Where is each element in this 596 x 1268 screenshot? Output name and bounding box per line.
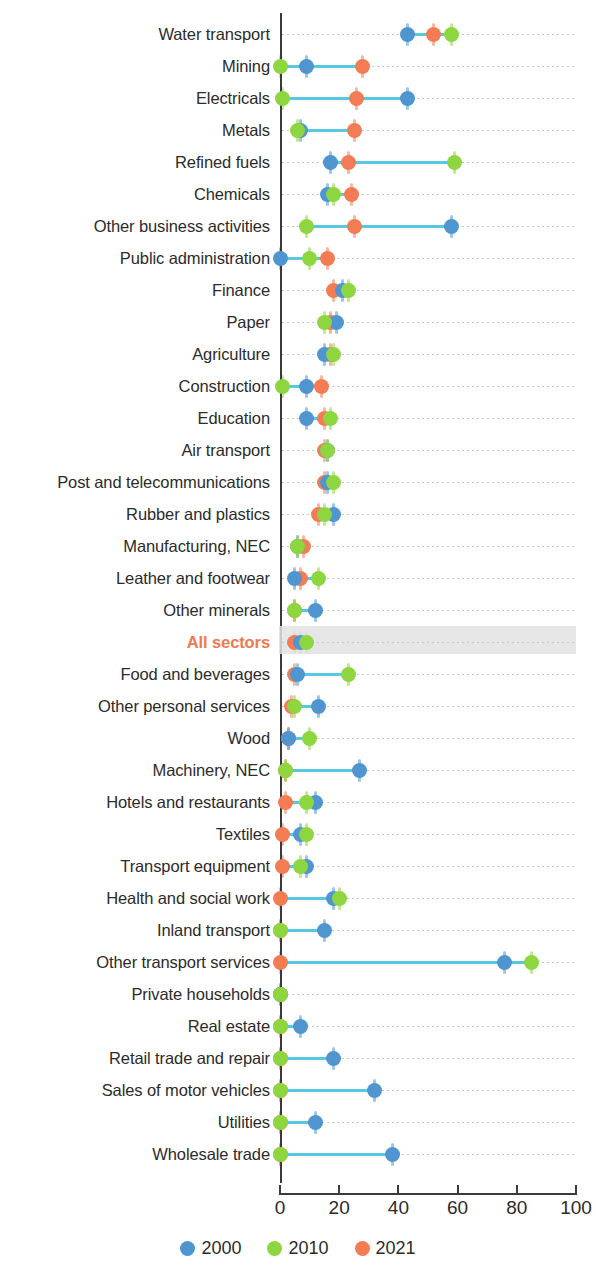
- data-point-2000[interactable]: [299, 411, 314, 426]
- data-point-2010[interactable]: [444, 27, 459, 42]
- data-point-whisker: [329, 151, 332, 174]
- x-axis-tick: [575, 1185, 577, 1195]
- row-category-label: Metals: [0, 114, 270, 146]
- chart-row: Manufacturing, NEC: [0, 530, 596, 562]
- data-point-2010[interactable]: [326, 347, 341, 362]
- data-point-2000[interactable]: [311, 699, 326, 714]
- data-point-2000[interactable]: [308, 1115, 323, 1130]
- data-point-2021[interactable]: [314, 379, 329, 394]
- data-point-2010[interactable]: [287, 699, 302, 714]
- x-axis-tick-label: 40: [388, 1197, 409, 1219]
- data-point-2010[interactable]: [311, 571, 326, 586]
- data-point-whisker: [391, 1143, 394, 1166]
- data-point-2000[interactable]: [352, 763, 367, 778]
- data-point-2010[interactable]: [524, 955, 539, 970]
- data-point-2010[interactable]: [299, 795, 314, 810]
- data-point-2010[interactable]: [341, 283, 356, 298]
- data-point-2021[interactable]: [347, 219, 362, 234]
- range-connector: [280, 65, 363, 68]
- data-point-2000[interactable]: [290, 667, 305, 682]
- data-point-2021[interactable]: [355, 59, 370, 74]
- gridline-dotted: [282, 610, 576, 611]
- data-point-2021[interactable]: [278, 795, 293, 810]
- data-point-2000[interactable]: [367, 1083, 382, 1098]
- data-point-2010[interactable]: [273, 987, 288, 1002]
- data-point-2010[interactable]: [273, 1019, 288, 1034]
- data-point-2021[interactable]: [426, 27, 441, 42]
- data-point-2010[interactable]: [273, 1051, 288, 1066]
- data-point-2010[interactable]: [317, 507, 332, 522]
- data-point-2010[interactable]: [275, 91, 290, 106]
- data-point-2000[interactable]: [400, 91, 415, 106]
- data-point-2000[interactable]: [293, 1019, 308, 1034]
- data-point-2010[interactable]: [302, 731, 317, 746]
- data-point-2010[interactable]: [299, 219, 314, 234]
- data-point-2021[interactable]: [341, 155, 356, 170]
- data-point-2010[interactable]: [299, 635, 314, 650]
- data-point-2000[interactable]: [323, 155, 338, 170]
- data-point-2000[interactable]: [326, 1051, 341, 1066]
- row-category-label: Other personal services: [0, 690, 270, 722]
- data-point-whisker: [296, 535, 299, 558]
- data-point-2000[interactable]: [287, 571, 302, 586]
- x-axis: 020406080100: [0, 1183, 596, 1223]
- data-point-2010[interactable]: [293, 859, 308, 874]
- data-point-2000[interactable]: [273, 251, 288, 266]
- chart-row: Food and beverages: [0, 658, 596, 690]
- data-point-2021[interactable]: [275, 827, 290, 842]
- data-point-2000[interactable]: [299, 379, 314, 394]
- data-point-2000[interactable]: [385, 1147, 400, 1162]
- gridline-dotted: [282, 642, 576, 643]
- data-point-2010[interactable]: [275, 379, 290, 394]
- data-point-2010[interactable]: [323, 411, 338, 426]
- data-point-whisker: [406, 87, 409, 110]
- data-point-2010[interactable]: [273, 1083, 288, 1098]
- legend-swatch-circle-icon: [355, 1241, 370, 1256]
- data-point-2010[interactable]: [273, 923, 288, 938]
- data-point-2010[interactable]: [290, 539, 305, 554]
- data-point-2000[interactable]: [281, 731, 296, 746]
- data-point-2010[interactable]: [332, 891, 347, 906]
- data-point-2010[interactable]: [320, 443, 335, 458]
- chart-row: Finance: [0, 274, 596, 306]
- legend-item[interactable]: 2010: [267, 1238, 328, 1259]
- data-point-2010[interactable]: [273, 1147, 288, 1162]
- data-point-2010[interactable]: [287, 603, 302, 618]
- data-point-whisker: [323, 503, 326, 526]
- gridline-dotted: [282, 578, 576, 579]
- legend-swatch-circle-icon: [267, 1241, 282, 1256]
- data-point-2000[interactable]: [299, 59, 314, 74]
- data-point-2021[interactable]: [273, 955, 288, 970]
- data-point-2021[interactable]: [275, 859, 290, 874]
- legend-item[interactable]: 2000: [180, 1238, 241, 1259]
- data-point-2010[interactable]: [290, 123, 305, 138]
- data-point-2000[interactable]: [308, 603, 323, 618]
- chart-row: Hotels and restaurants: [0, 786, 596, 818]
- data-point-2010[interactable]: [317, 315, 332, 330]
- data-point-2010[interactable]: [273, 59, 288, 74]
- x-axis-line: [280, 1193, 576, 1195]
- data-point-2021[interactable]: [347, 123, 362, 138]
- data-point-2010[interactable]: [447, 155, 462, 170]
- data-point-2010[interactable]: [326, 187, 341, 202]
- data-point-2010[interactable]: [278, 763, 293, 778]
- data-point-2010[interactable]: [302, 251, 317, 266]
- data-point-2010[interactable]: [326, 475, 341, 490]
- chart-row: Health and social work: [0, 882, 596, 914]
- data-point-2010[interactable]: [273, 1115, 288, 1130]
- data-point-2021[interactable]: [320, 251, 335, 266]
- data-point-2010[interactable]: [299, 827, 314, 842]
- data-point-whisker: [358, 759, 361, 782]
- data-point-2000[interactable]: [497, 955, 512, 970]
- data-point-2021[interactable]: [349, 91, 364, 106]
- data-point-2000[interactable]: [444, 219, 459, 234]
- legend-item[interactable]: 2021: [355, 1238, 416, 1259]
- data-point-2021[interactable]: [344, 187, 359, 202]
- data-point-whisker: [279, 951, 282, 974]
- data-point-2000[interactable]: [400, 27, 415, 42]
- data-point-2000[interactable]: [317, 923, 332, 938]
- data-point-2010[interactable]: [341, 667, 356, 682]
- chart-row: Sales of motor vehicles: [0, 1074, 596, 1106]
- x-axis-tick-label: 0: [275, 1197, 286, 1219]
- data-point-2021[interactable]: [273, 891, 288, 906]
